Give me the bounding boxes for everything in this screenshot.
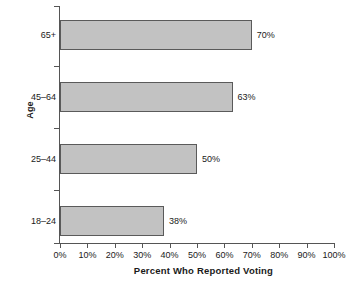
bar-18–24 — [60, 206, 164, 236]
category-label-65+: 65+ — [0, 30, 56, 40]
bar-65+ — [60, 20, 252, 50]
x-axis-tick-label: 100% — [322, 250, 345, 261]
bar-value-label: 38% — [169, 216, 187, 226]
x-axis-tick-label: 20% — [106, 250, 124, 261]
bar-25–44 — [60, 144, 197, 174]
y-axis-tick — [54, 66, 60, 67]
category-label-45–64: 45–64 — [0, 92, 56, 102]
x-axis-tick-label: 30% — [133, 250, 151, 261]
x-axis-tick — [142, 243, 143, 248]
x-axis-tick — [307, 243, 308, 248]
x-axis-tick-label: 50% — [188, 250, 206, 261]
category-label-18–24: 18–24 — [0, 216, 56, 226]
bar-45–64 — [60, 82, 233, 112]
x-axis-tick — [170, 243, 171, 248]
x-axis-tick — [197, 243, 198, 248]
x-axis-tick — [279, 243, 280, 248]
category-label-25–44: 25–44 — [0, 154, 56, 164]
x-axis-tick — [60, 243, 61, 248]
x-axis-tick — [252, 243, 253, 248]
x-axis-tick-label: 0% — [53, 250, 66, 261]
y-axis-tick — [54, 128, 60, 129]
y-axis-tick — [54, 6, 60, 7]
x-axis-tick-label: 80% — [270, 250, 288, 261]
x-axis-tick-label: 90% — [298, 250, 316, 261]
x-axis-tick — [87, 243, 88, 248]
bar-value-label: 63% — [238, 92, 256, 102]
bar-value-label: 50% — [202, 154, 220, 164]
x-axis-title: Percent Who Reported Voting — [0, 265, 351, 276]
x-axis-tick — [115, 243, 116, 248]
y-axis-tick — [54, 190, 60, 191]
y-axis-title: Age — [25, 80, 35, 140]
x-axis-tick-label: 60% — [215, 250, 233, 261]
x-axis-tick-label: 10% — [78, 250, 96, 261]
x-axis-tick — [224, 243, 225, 248]
x-axis-tick-label: 40% — [161, 250, 179, 261]
bar-chart: Age 70%63%50%38% 65+45–6425–4418–24 0%10… — [0, 0, 351, 286]
x-axis-tick-label: 70% — [243, 250, 261, 261]
bar-value-label: 70% — [257, 30, 275, 40]
x-axis-tick — [334, 243, 335, 248]
